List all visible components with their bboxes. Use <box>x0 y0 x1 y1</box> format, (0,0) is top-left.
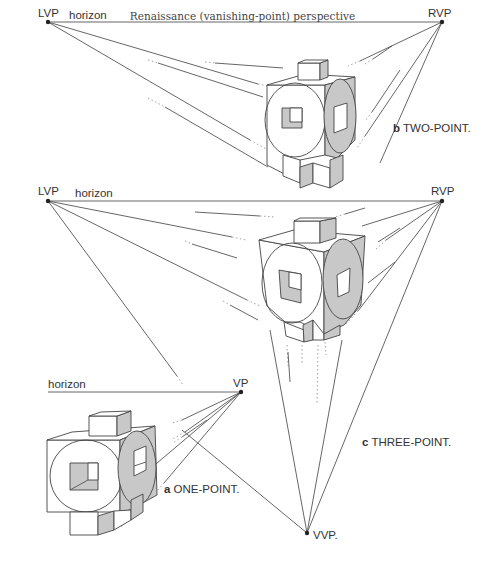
one-point-panel <box>47 392 241 535</box>
two-point-panel <box>48 22 442 188</box>
lvp-dot-three-point <box>46 199 50 203</box>
caption-letter: a <box>164 483 170 495</box>
vvp-dot <box>305 531 309 535</box>
caption-text: TWO-POINT. <box>403 122 471 134</box>
perspective-diagram: .ln { stroke: #555; stroke-width: 0.9; f… <box>0 0 485 568</box>
three-point-rvp-label: RVP <box>431 186 454 198</box>
three-point-lvp-label: LVP <box>38 186 59 198</box>
two-point-caption: b TWO-POINT. <box>393 123 471 135</box>
three-point-caption: c THREE-POINT. <box>362 437 451 449</box>
one-point-caption: a ONE-POINT. <box>164 484 239 496</box>
vvp-label: VVP. <box>313 530 338 542</box>
caption-text: THREE-POINT. <box>371 436 451 448</box>
vp-dot-one-point <box>239 390 243 394</box>
caption-text: ONE-POINT. <box>174 483 240 495</box>
three-point-horizon-label: horizon <box>75 188 113 200</box>
caption-letter: b <box>393 122 400 134</box>
one-point-vp-label: VP <box>233 378 248 390</box>
caption-letter: c <box>362 436 368 448</box>
two-point-rvp-label: RVP <box>428 8 451 20</box>
one-point-horizon-label: horizon <box>48 379 86 391</box>
two-point-horizon-label: horizon <box>69 10 107 22</box>
two-point-lvp-label: LVP <box>38 8 59 20</box>
rvp-dot-three-point <box>440 199 444 203</box>
